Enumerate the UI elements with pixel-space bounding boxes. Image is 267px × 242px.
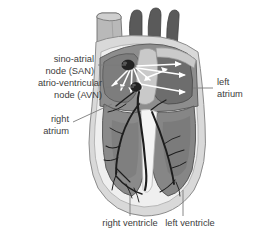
label-right-atrium-line1: right — [51, 114, 70, 124]
label-avn-line1: atrio-ventricular — [38, 78, 102, 88]
san-highlight — [123, 62, 127, 65]
label-left-atrium-line2: atrium — [217, 89, 243, 99]
label-left-atrium-line1: left — [217, 77, 230, 87]
heart-conduction-diagram: sino-atrial node (SAN) atrio-ventricular… — [0, 0, 267, 242]
label-right-ventricle: right ventricle — [102, 218, 157, 228]
avn-highlight — [132, 84, 136, 87]
right-atrium-chamber — [103, 54, 141, 103]
label-avn-line2: node (AVN) — [54, 90, 102, 100]
ventricles-region — [102, 104, 195, 196]
atria-region — [100, 44, 198, 112]
label-san-line2: node (SAN) — [45, 66, 94, 76]
label-left-ventricle: left ventricle — [165, 218, 215, 228]
label-san-line1: sino-atrial — [54, 54, 94, 64]
label-right-atrium-line2: atrium — [43, 126, 69, 136]
